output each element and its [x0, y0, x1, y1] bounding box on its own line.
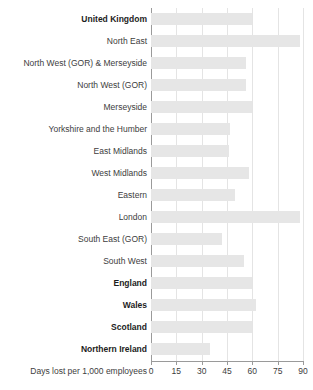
chart-row: Wales	[0, 294, 313, 316]
tick-label-90: 90	[298, 366, 307, 376]
tick-label-45: 45	[222, 366, 231, 376]
bar	[151, 145, 229, 157]
category-label: North West (GOR) & Merseyside	[23, 52, 147, 74]
bar	[151, 277, 252, 289]
chart-row: Scotland	[0, 316, 313, 338]
chart-row: England	[0, 272, 313, 294]
chart-row: North West (GOR)	[0, 74, 313, 96]
chart-row: Yorkshire and the Humber	[0, 118, 313, 140]
chart-row: Northern Ireland	[0, 338, 313, 360]
tickmark-30	[202, 361, 203, 365]
category-label: Yorkshire and the Humber	[49, 118, 147, 140]
bar	[151, 35, 300, 47]
x-axis-tickmarks	[151, 361, 303, 365]
x-axis-title: Days lost per 1,000 employees	[30, 366, 147, 376]
chart-row: South West	[0, 250, 313, 272]
category-label: West Midlands	[91, 162, 147, 184]
bar	[151, 255, 244, 267]
bar	[151, 167, 249, 179]
bar	[151, 233, 222, 245]
chart-row: London	[0, 206, 313, 228]
category-label: England	[113, 272, 147, 294]
chart-row: South East (GOR)	[0, 228, 313, 250]
category-label: London	[119, 206, 147, 228]
category-label: United Kingdom	[81, 8, 147, 30]
bar	[151, 13, 252, 25]
category-label: Northern Ireland	[81, 338, 147, 360]
bar	[151, 343, 210, 355]
category-label: South East (GOR)	[78, 228, 147, 250]
chart-row: Merseyside	[0, 96, 313, 118]
category-label: Merseyside	[104, 96, 147, 118]
tick-label-30: 30	[197, 366, 206, 376]
bar	[151, 299, 256, 311]
tickmark-90	[303, 361, 304, 365]
tick-label-60: 60	[248, 366, 257, 376]
bar	[151, 189, 235, 201]
tick-label-15: 15	[172, 366, 181, 376]
category-label: South West	[103, 250, 147, 272]
category-label: North East	[107, 30, 147, 52]
bar	[151, 211, 300, 223]
tickmark-0	[151, 361, 152, 365]
category-label: North West (GOR)	[77, 74, 147, 96]
category-label: Eastern	[118, 184, 147, 206]
chart-row: United Kingdom	[0, 8, 313, 30]
chart-row: East Midlands	[0, 140, 313, 162]
tickmark-45	[227, 361, 228, 365]
chart-row: North East	[0, 30, 313, 52]
bar	[151, 321, 252, 333]
bar-chart: United KingdomNorth EastNorth West (GOR)…	[0, 0, 313, 390]
bar-rows: United KingdomNorth EastNorth West (GOR)…	[0, 0, 313, 353]
tick-label-75: 75	[273, 366, 282, 376]
chart-row: North West (GOR) & Merseyside	[0, 52, 313, 74]
bar	[151, 101, 252, 113]
tickmark-75	[278, 361, 279, 365]
category-label: Wales	[123, 294, 147, 316]
tick-label-0: 0	[149, 366, 154, 376]
bar	[151, 57, 246, 69]
tickmark-15	[176, 361, 177, 365]
bar	[151, 79, 246, 91]
tickmark-60	[252, 361, 253, 365]
chart-row: Eastern	[0, 184, 313, 206]
chart-row: West Midlands	[0, 162, 313, 184]
bar	[151, 123, 230, 135]
category-label: East Midlands	[94, 140, 147, 162]
category-label: Scotland	[111, 316, 147, 338]
